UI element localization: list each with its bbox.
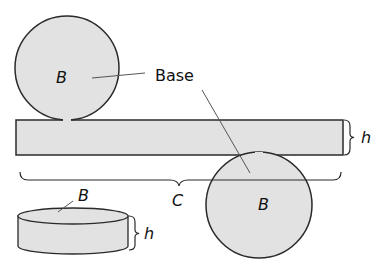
top-base-circle [15,16,119,120]
top-base-label: B [56,68,67,87]
rect-height-brace [344,120,354,155]
bottom-base-label: B [258,195,269,214]
circumference-label: C [172,191,184,210]
base-callout-label: Base [155,66,194,85]
rect-height-label: h [361,128,371,147]
cylinder-base-label: B [78,186,89,205]
cylinder-height-brace [129,216,139,250]
lateral-rectangle [16,120,343,155]
cylinder-3d [18,208,128,254]
cylinder-height-label: h [144,224,154,243]
cylinder-net-diagram: B Base B h C B h [0,0,380,269]
